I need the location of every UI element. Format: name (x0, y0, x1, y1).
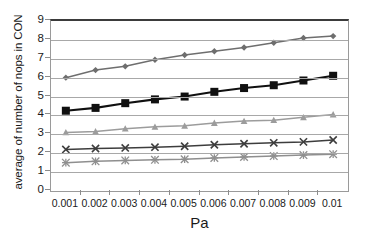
y-axis-tick-labels: 0123456789 (24, 19, 44, 189)
x-tick-mark (288, 190, 289, 195)
gridline (51, 172, 348, 173)
x-tick-mark (317, 190, 318, 195)
y-tick-mark (45, 170, 50, 171)
square-marker (240, 84, 248, 92)
x-axis-title: Pa (50, 214, 349, 231)
x-tick-mark (228, 190, 229, 195)
gridline (51, 153, 348, 154)
gridline (51, 115, 348, 116)
x-tick-mark (199, 190, 200, 195)
series-4-x (62, 136, 337, 153)
plot-area (50, 19, 349, 192)
y-tick-mark (45, 151, 50, 152)
line-chart: average of number of nops in CON 0123456… (0, 0, 366, 242)
x-tick-mark (139, 190, 140, 195)
series-line (66, 36, 333, 78)
asterisk-marker (121, 157, 129, 165)
y-tick-mark (45, 189, 50, 190)
x-axis-tick-labels: 0.0010.0020.0030.0040.0050.0060.0070.008… (50, 197, 349, 213)
square-marker (210, 88, 218, 96)
series-line (66, 76, 333, 111)
series-line (66, 154, 333, 163)
diamond-marker (92, 67, 98, 73)
y-tick-mark (45, 95, 50, 96)
x-tick-label: 0.01 (309, 197, 355, 209)
square-marker (270, 81, 278, 89)
gridline (51, 59, 348, 60)
series-layer (51, 21, 348, 191)
asterisk-marker (92, 158, 100, 166)
y-tick-mark (45, 19, 50, 20)
x-tick-mark (80, 190, 81, 195)
asterisk-marker (62, 159, 70, 167)
y-tick-label: 2 (24, 146, 44, 156)
diamond-marker (330, 33, 336, 39)
gridline (51, 97, 348, 98)
square-marker (62, 107, 70, 115)
square-marker (92, 104, 100, 112)
y-tick-label: 8 (24, 33, 44, 43)
series-line (66, 115, 333, 133)
asterisk-marker (151, 156, 159, 164)
y-tick-mark (45, 76, 50, 77)
gridline (51, 134, 348, 135)
square-marker (121, 99, 129, 107)
diamond-marker (122, 63, 128, 69)
asterisk-marker (211, 154, 219, 162)
y-tick-label: 7 (24, 52, 44, 62)
x-tick-mark (109, 190, 110, 195)
series-line (66, 140, 333, 149)
y-tick-label: 9 (24, 14, 44, 24)
y-tick-mark (45, 132, 50, 133)
diamond-marker (241, 44, 247, 50)
y-tick-label: 6 (24, 71, 44, 81)
asterisk-marker (240, 153, 248, 161)
y-tick-label: 4 (24, 108, 44, 118)
y-tick-label: 0 (24, 184, 44, 194)
y-tick-mark (45, 57, 50, 58)
y-axis-title: average of number of nops in CON (12, 12, 24, 192)
asterisk-marker (181, 155, 189, 163)
y-tick-mark (45, 113, 50, 114)
x-tick-mark (258, 190, 259, 195)
y-tick-mark (45, 38, 50, 39)
y-tick-label: 5 (24, 90, 44, 100)
diamond-marker (181, 52, 187, 58)
y-tick-label: 3 (24, 127, 44, 137)
x-tick-mark (169, 190, 170, 195)
diamond-marker (211, 48, 217, 54)
gridline (51, 40, 348, 41)
y-tick-label: 1 (24, 165, 44, 175)
gridline (51, 78, 348, 79)
